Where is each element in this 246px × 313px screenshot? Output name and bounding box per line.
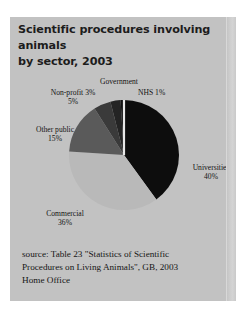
pie-chart: Government Non-profit 3% 5% NHS 1% Other… bbox=[10, 57, 236, 242]
pie-graphic bbox=[68, 99, 180, 211]
pie-svg bbox=[68, 99, 180, 211]
pie-label-government: Government bbox=[88, 77, 150, 86]
source-note-line-1: source: Table 23 "Statistics of Scientif… bbox=[22, 248, 226, 261]
pie-label-universities-name: Universities bbox=[193, 163, 230, 172]
source-note-line-3: Home Office bbox=[22, 274, 226, 287]
pie-label-nhs-text: NHS 1% bbox=[138, 88, 165, 97]
pie-label-non-profit-name: Non-profit bbox=[51, 88, 83, 97]
pie-label-government-pct: 3% bbox=[85, 88, 95, 97]
pie-label-universities-pct: 40% bbox=[186, 172, 236, 181]
pie-label-non-profit-pct: 5% bbox=[44, 97, 102, 106]
chart-title-line-1: Scientific procedures involving animals bbox=[18, 22, 224, 54]
pie-label-nhs: NHS 1% bbox=[138, 88, 165, 97]
pie-label-other-public-pct: 15% bbox=[24, 134, 86, 143]
pie-label-other-public-name: Other public bbox=[36, 125, 74, 134]
figure-panel: Scientific procedures involving animals … bbox=[10, 17, 236, 301]
pie-label-government-name: Government bbox=[100, 77, 138, 86]
pie-label-commercial: Commercial 36% bbox=[34, 209, 96, 228]
pie-label-other-public: Other public 15% bbox=[24, 125, 86, 144]
pie-label-commercial-pct: 36% bbox=[34, 218, 96, 227]
source-note: source: Table 23 "Statistics of Scientif… bbox=[22, 248, 226, 288]
pie-label-universities: Universities 40% bbox=[186, 163, 236, 182]
source-note-line-2: Procedures on Living Animals", GB, 2003 bbox=[22, 261, 226, 274]
pie-label-commercial-name: Commercial bbox=[46, 209, 84, 218]
pie-label-non-profit: Non-profit 3% 5% bbox=[44, 88, 102, 107]
